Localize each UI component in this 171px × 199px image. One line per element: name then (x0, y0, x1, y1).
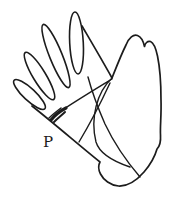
ring-finger-outline (20, 49, 59, 103)
hand-outline-group (10, 12, 161, 186)
hand-drawing-svg: P (0, 0, 171, 199)
hand-diagram: P (0, 0, 171, 199)
fate-line (88, 77, 140, 177)
percussion-label: P (43, 133, 53, 151)
life-line (94, 78, 130, 167)
percussion-mark (49, 108, 66, 122)
index-finger-outline (68, 12, 85, 75)
pinky-finger-outline (10, 76, 49, 113)
